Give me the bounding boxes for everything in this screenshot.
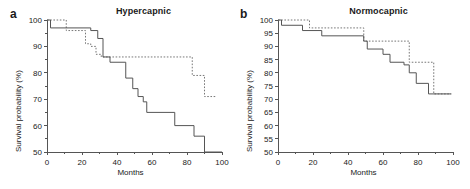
y-tick-label: 70 bbox=[264, 95, 273, 104]
y-tick-label: 90 bbox=[264, 42, 273, 51]
x-tick-label: 100 bbox=[446, 158, 460, 167]
x-tick-label: 40 bbox=[113, 158, 122, 167]
x-tick-label: 60 bbox=[379, 158, 388, 167]
x-tick-label: 20 bbox=[78, 158, 87, 167]
x-tick-label: 40 bbox=[344, 158, 353, 167]
panel-title-hypercapnic: Hypercapnic bbox=[0, 6, 261, 16]
survival-curve-solid bbox=[47, 20, 222, 152]
y-axis-label-a: Survival probability (%) bbox=[14, 70, 23, 152]
survival-curve-dashed bbox=[47, 20, 217, 97]
x-tick-label: 60 bbox=[148, 158, 157, 167]
x-tick-label: 80 bbox=[414, 158, 423, 167]
x-axis-label-a: Months bbox=[0, 168, 235, 177]
y-tick-label: 95 bbox=[264, 29, 273, 38]
y-tick-label: 85 bbox=[264, 56, 273, 65]
y-tick-label: 100 bbox=[260, 16, 274, 25]
panel-title-normocapnic: Normocapnic bbox=[235, 6, 470, 16]
y-tick-label: 80 bbox=[264, 69, 273, 78]
y-tick-label: 75 bbox=[264, 82, 273, 91]
x-axis-label-b: Months bbox=[235, 168, 470, 177]
y-tick-label: 80 bbox=[33, 69, 42, 78]
x-tick-label: 100 bbox=[215, 158, 229, 167]
plot-area-hypercapnic: 5060708090100020406080100 bbox=[0, 0, 235, 189]
survival-curve-solid bbox=[278, 20, 451, 94]
figure-container: a Hypercapnic Survival probability (%) M… bbox=[0, 0, 470, 189]
y-tick-label: 70 bbox=[33, 95, 42, 104]
y-tick-label: 55 bbox=[264, 135, 273, 144]
x-tick-label: 0 bbox=[45, 158, 50, 167]
y-tick-label: 100 bbox=[29, 16, 43, 25]
y-tick-label: 50 bbox=[33, 148, 42, 157]
y-tick-label: 50 bbox=[264, 148, 273, 157]
survival-curve-dashed bbox=[278, 20, 451, 94]
panel-normocapnic: b Normocapnic Survival probability (%) M… bbox=[235, 0, 470, 189]
x-tick-label: 0 bbox=[276, 158, 281, 167]
y-tick-label: 60 bbox=[264, 122, 273, 131]
y-tick-label: 90 bbox=[33, 42, 42, 51]
y-tick-label: 65 bbox=[264, 108, 273, 117]
plot-area-normocapnic: 50556065707580859095100020406080100 bbox=[235, 0, 470, 189]
x-tick-label: 20 bbox=[309, 158, 318, 167]
x-tick-label: 80 bbox=[183, 158, 192, 167]
y-tick-label: 60 bbox=[33, 122, 42, 131]
y-axis-label-b: Survival probability (%) bbox=[245, 70, 254, 152]
panel-hypercapnic: a Hypercapnic Survival probability (%) M… bbox=[0, 0, 235, 189]
